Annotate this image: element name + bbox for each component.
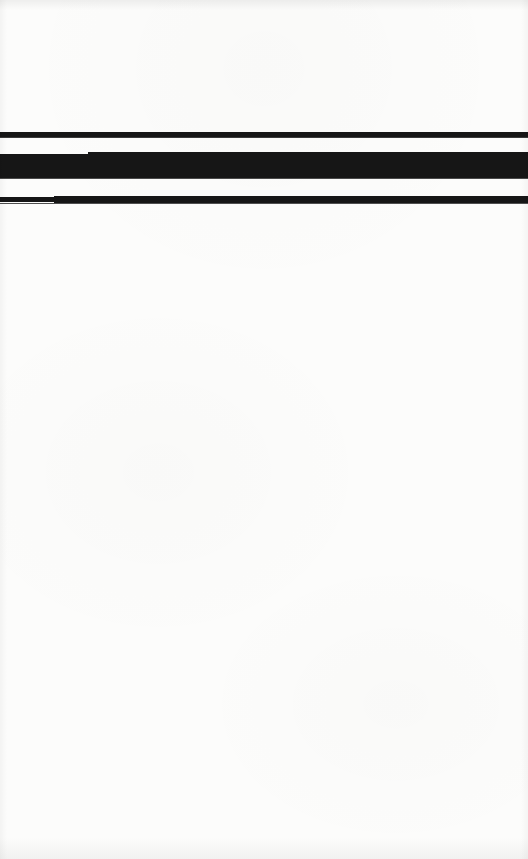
bottom-rule-bar-right-segment bbox=[54, 196, 528, 203]
bottom-rule-bar-antialias-edge bbox=[0, 203, 528, 204]
bottom-rule-bar-left-segment bbox=[0, 197, 56, 202]
redaction-block-bar-left-segment bbox=[0, 154, 90, 178]
lower-blank-area bbox=[0, 208, 528, 859]
redaction-block-bar-antialias-edge bbox=[0, 178, 528, 179]
top-rule-bar-antialias-edge bbox=[0, 137, 528, 138]
redaction-block-bar-right-segment bbox=[88, 152, 528, 178]
scanned-page bbox=[0, 0, 528, 859]
upper-blank-area bbox=[0, 0, 528, 130]
